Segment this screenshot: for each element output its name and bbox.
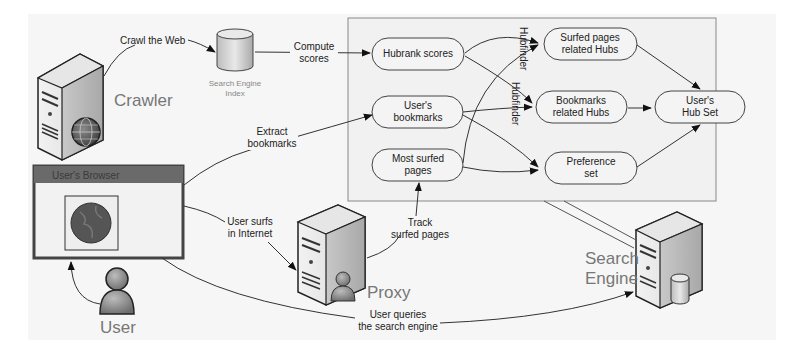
search-engine-server-icon [636, 212, 702, 308]
edge-label-extract-2: bookmarks [248, 138, 297, 149]
hubfinder-label-a: Hubfinder [518, 27, 529, 71]
svg-text:Hub Set: Hub Set [682, 107, 718, 118]
search-engine-label-line2: Engine [585, 269, 638, 288]
edge-label-surfs-1: User surfs [227, 216, 273, 227]
edge-label-queries-1: User queries [370, 309, 427, 320]
edge-label-extract-1: Extract [256, 126, 287, 137]
search-engine-label-line1: Search [585, 249, 639, 268]
edge-label-surfs-2: in Internet [228, 228, 273, 239]
index-label-line2: Index [225, 89, 245, 98]
database-icon [671, 274, 689, 304]
svg-text:Surfed pages: Surfed pages [560, 32, 620, 43]
edge-label-compute-2: scores [299, 53, 328, 64]
node-hubrank-scores: Hubrank scores [372, 38, 464, 70]
node-users-bookmarks: User's bookmarks [372, 96, 463, 128]
hubfinder-label-b: Hubfinder [510, 82, 521, 126]
svg-text:pages: pages [404, 165, 431, 176]
node-bookmarks-hubs: Bookmarks related Hubs [536, 91, 627, 123]
svg-text:Hubrank scores: Hubrank scores [383, 48, 453, 59]
hubfinder-architecture-diagram: Crawler Search Engine Index Crawl the We… [0, 0, 790, 353]
diagram-canvas: Crawler Search Engine Index Crawl the We… [0, 0, 790, 353]
index-label-line1: Search Engine [209, 79, 262, 88]
node-most-surfed-pages: Most surfed pages [372, 149, 463, 181]
svg-text:User's: User's [404, 100, 432, 111]
svg-text:Most surfed: Most surfed [392, 153, 444, 164]
node-users-hub-set: User's Hub Set [655, 91, 745, 123]
svg-text:related Hubs: related Hubs [562, 44, 619, 55]
edge-label-crawl: Crawl the Web [120, 35, 186, 46]
svg-text:User's: User's [686, 95, 714, 106]
crawler-label: Crawler [114, 91, 173, 110]
proxy-server-icon [298, 205, 365, 305]
svg-text:Bookmarks: Bookmarks [556, 95, 606, 106]
globe-icon [71, 203, 111, 243]
user-label: User [100, 318, 136, 337]
edge-label-track-1: Track [408, 217, 434, 228]
svg-text:related Hubs: related Hubs [553, 107, 610, 118]
svg-text:bookmarks: bookmarks [394, 112, 443, 123]
node-preference-set: Preference set [545, 152, 637, 184]
svg-text:set: set [584, 168, 598, 179]
browser-title: User's Browser [52, 170, 120, 181]
search-engine-index-icon [217, 29, 253, 71]
user-browser-window: User's Browser [34, 166, 183, 258]
proxy-label: Proxy [367, 283, 411, 302]
globe-icon [72, 118, 100, 146]
edge-label-queries-2: the search engine [358, 321, 438, 332]
node-surfed-pages-hubs: Surfed pages related Hubs [544, 28, 637, 60]
edge-label-track-2: surfed pages [391, 229, 449, 240]
edge-label-compute-1: Compute [294, 41, 335, 52]
svg-text:Preference: Preference [567, 156, 616, 167]
